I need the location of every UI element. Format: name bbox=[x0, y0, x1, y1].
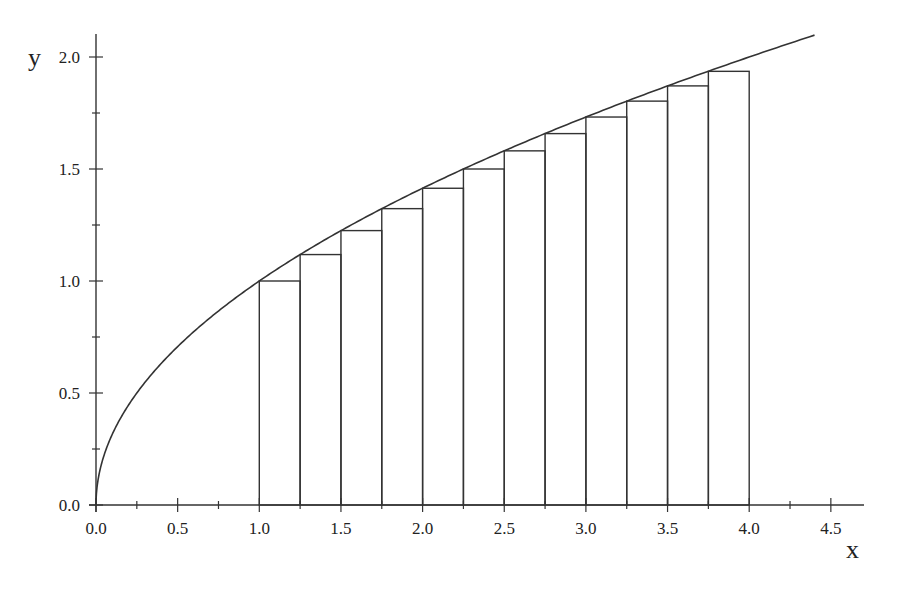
x-tick-label: 0.0 bbox=[85, 519, 106, 538]
x-tick-label: 2.5 bbox=[494, 519, 515, 538]
riemann-rectangle bbox=[341, 231, 382, 505]
riemann-rectangle bbox=[708, 71, 749, 505]
axes: 0.00.51.01.52.02.53.03.54.04.50.00.51.01… bbox=[59, 34, 864, 538]
y-tick-label: 2.0 bbox=[59, 48, 80, 67]
x-tick-label: 1.5 bbox=[330, 519, 351, 538]
y-tick-label: 1.5 bbox=[59, 160, 80, 179]
riemann-rectangle bbox=[545, 134, 586, 505]
x-axis-label: x bbox=[846, 535, 859, 564]
riemann-rectangle bbox=[463, 169, 504, 505]
riemann-rectangle bbox=[627, 101, 668, 505]
y-tick-label: 0.0 bbox=[59, 496, 80, 515]
x-tick-label: 0.5 bbox=[167, 519, 188, 538]
x-tick-label: 4.0 bbox=[739, 519, 760, 538]
riemann-rectangle bbox=[586, 117, 627, 505]
riemann-rectangle bbox=[423, 188, 464, 505]
y-tick-label: 0.5 bbox=[59, 384, 80, 403]
y-tick-label: 1.0 bbox=[59, 272, 80, 291]
riemann-rectangle bbox=[504, 151, 545, 505]
x-tick-label: 2.0 bbox=[412, 519, 433, 538]
x-tick-label: 1.0 bbox=[249, 519, 270, 538]
chart: 0.00.51.01.52.02.53.03.54.04.50.00.51.01… bbox=[0, 0, 897, 589]
riemann-rectangle bbox=[668, 86, 709, 505]
riemann-rectangle bbox=[300, 255, 341, 505]
x-tick-label: 3.0 bbox=[575, 519, 596, 538]
riemann-rectangle bbox=[382, 209, 423, 505]
x-tick-label: 3.5 bbox=[657, 519, 678, 538]
y-axis-label: y bbox=[28, 43, 41, 72]
riemann-rectangle bbox=[259, 281, 300, 505]
x-tick-label: 4.5 bbox=[820, 519, 841, 538]
riemann-rectangles bbox=[259, 71, 749, 505]
sqrt-curve bbox=[96, 35, 815, 505]
